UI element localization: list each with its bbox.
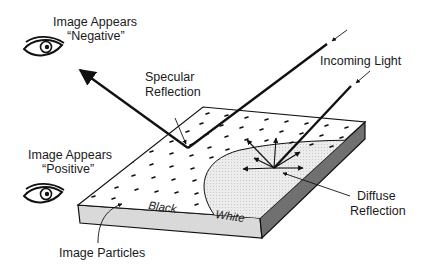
positive-label-line2: “Positive”: [42, 162, 94, 176]
reflection-diagram: Black White Image Appears “: [0, 0, 425, 267]
specular-label-line2: Reflection: [145, 85, 201, 99]
positive-label-line1: Image Appears: [28, 148, 112, 162]
film-slab: Black White: [78, 107, 380, 240]
specular-label-line1: Specular: [145, 70, 194, 84]
negative-label-line2: “Negative”: [67, 29, 125, 43]
negative-label-line1: Image Appears: [53, 15, 137, 29]
eye-icon: [24, 37, 64, 56]
incoming-ray-diffuse-arrow: [356, 71, 370, 83]
diffuse-label-line1: Diffuse: [357, 189, 396, 203]
diffuse-label-line2: Reflection: [350, 204, 406, 218]
eye-icon: [24, 184, 64, 203]
image-particles-label: Image Particles: [59, 246, 145, 260]
incoming-light-label: Incoming Light: [320, 54, 402, 68]
incoming-ray-specular-arrow: [332, 30, 347, 41]
